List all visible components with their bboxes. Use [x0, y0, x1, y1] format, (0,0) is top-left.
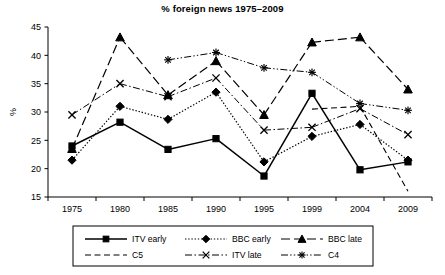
series-segment — [264, 136, 312, 162]
series-segment — [168, 92, 216, 119]
x-tick-label: 1990 — [206, 204, 226, 214]
series-segment — [216, 78, 264, 130]
x-tick-label: 1999 — [302, 204, 322, 214]
data-point-marker — [117, 119, 123, 125]
series-segment — [72, 37, 120, 149]
legend-item-itv-early[interactable]: ITV early — [85, 234, 167, 244]
series-segment — [168, 61, 216, 95]
data-point-marker — [260, 64, 268, 72]
series-segment — [264, 93, 312, 176]
legend-item-bbc-late[interactable]: BBC late — [281, 234, 362, 244]
series-c5 — [312, 106, 408, 191]
data-point-marker — [260, 158, 268, 166]
x-tick-label: 2004 — [350, 204, 370, 214]
data-point-marker — [165, 146, 171, 152]
legend-item-bbc-early[interactable]: BBC early — [185, 234, 271, 244]
series-segment — [216, 61, 264, 115]
series-segment — [216, 92, 264, 162]
x-tick-label: 2009 — [398, 204, 418, 214]
x-tick-label: 1995 — [254, 204, 274, 214]
series-segment — [312, 106, 360, 109]
series-segment — [168, 53, 216, 60]
data-point-marker — [116, 33, 125, 41]
data-point-marker — [357, 167, 363, 173]
data-point-marker — [309, 90, 315, 96]
data-point-marker — [212, 88, 220, 96]
data-point-marker — [213, 136, 219, 142]
legend-label: ITV early — [132, 234, 167, 244]
chart-container: % foreign news 1975–2009 15202530354045%… — [0, 0, 445, 275]
series-c4 — [164, 49, 412, 115]
series-segment — [312, 37, 360, 42]
x-tick-label: 1975 — [62, 204, 82, 214]
legend-item-c5[interactable]: C5 — [85, 250, 143, 260]
y-tick-label: 45 — [31, 22, 41, 32]
data-point-marker — [164, 56, 172, 64]
series-segment — [360, 106, 408, 191]
series-segment — [312, 72, 360, 103]
chart-legend: ITV earlyBBC earlyBBC lateC5ITV lateC4 — [73, 226, 373, 266]
data-point-marker — [356, 33, 365, 41]
x-tick-label: 1980 — [110, 204, 130, 214]
legend-item-itv-late[interactable]: ITV late — [185, 250, 262, 260]
data-point-marker — [298, 251, 305, 258]
y-tick-label: 35 — [31, 79, 41, 89]
series-segment — [168, 139, 216, 150]
data-point-marker — [212, 57, 221, 65]
axes: 15202530354045%1975198019851990199519992… — [8, 22, 432, 214]
data-point-marker — [212, 49, 220, 57]
series-segment — [264, 42, 312, 115]
data-point-marker — [103, 236, 109, 242]
legend-label: C5 — [132, 250, 143, 260]
line-chart-plot: 15202530354045%1975198019851990199519992… — [0, 0, 445, 275]
data-point-marker — [68, 111, 75, 118]
series-segment — [360, 162, 408, 170]
series-segment — [360, 124, 408, 160]
series-segment — [120, 37, 168, 95]
data-point-marker — [116, 80, 123, 87]
series-segment — [360, 37, 408, 89]
series-segment — [216, 53, 264, 68]
data-point-marker — [356, 100, 364, 108]
y-tick-label: 30 — [31, 107, 41, 117]
x-tick-label: 1985 — [158, 204, 178, 214]
data-point-marker — [202, 235, 210, 243]
series-segment — [264, 127, 312, 130]
data-point-marker — [164, 115, 172, 123]
y-tick-label: 20 — [31, 164, 41, 174]
y-tick-label: 40 — [31, 51, 41, 61]
data-point-marker — [212, 74, 219, 81]
legend-label: ITV late — [232, 250, 262, 260]
series-segment — [312, 93, 360, 170]
legend-label: C4 — [328, 250, 339, 260]
series-segment — [312, 109, 360, 128]
legend-label: BBC early — [232, 234, 271, 244]
data-point-marker — [308, 68, 316, 76]
series-segment — [264, 68, 312, 73]
series-segment — [120, 84, 168, 97]
legend-label: BBC late — [328, 234, 362, 244]
data-point-marker — [261, 173, 267, 179]
series-segment — [120, 106, 168, 119]
series-segment — [120, 122, 168, 149]
legend-item-c4[interactable]: C4 — [281, 250, 339, 260]
y-tick-label: 15 — [31, 192, 41, 202]
y-tick-label: 25 — [31, 136, 41, 146]
series-segment — [72, 84, 120, 115]
data-point-marker — [404, 106, 412, 114]
series-segment — [360, 109, 408, 135]
series-layer — [68, 33, 413, 191]
data-point-marker — [308, 132, 316, 140]
series-bbc-late — [68, 33, 413, 153]
series-segment — [216, 139, 264, 176]
series-segment — [360, 104, 408, 111]
data-point-marker — [404, 131, 411, 138]
series-segment — [168, 78, 216, 97]
y-axis-title: % — [8, 108, 18, 116]
